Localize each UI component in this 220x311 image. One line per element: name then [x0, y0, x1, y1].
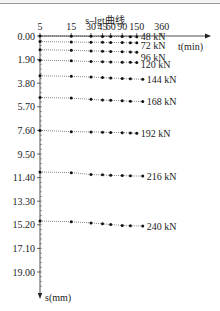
data-point [101, 131, 104, 134]
series-144-kn: 144 kN [39, 74, 177, 85]
data-point [70, 97, 73, 100]
data-point [39, 171, 42, 174]
x-tick-label: 30 [86, 21, 96, 32]
data-point [135, 41, 138, 44]
series-label: 240 kN [147, 221, 177, 232]
data-point [101, 98, 104, 101]
data-point [101, 41, 104, 44]
data-point [135, 35, 138, 38]
y-tick-label: 17.10 [13, 243, 36, 254]
data-point [141, 225, 144, 228]
data-point [129, 174, 132, 177]
data-point [129, 100, 132, 103]
y-axis-arrow-icon [38, 293, 42, 299]
series-216-kn: 216 kN [39, 171, 177, 182]
series-label: 144 kN [147, 74, 177, 85]
data-point [39, 74, 42, 77]
data-point [135, 132, 138, 135]
data-point [135, 51, 138, 54]
x-axis-arrow-icon [205, 34, 211, 39]
data-point [89, 75, 92, 78]
data-point [121, 61, 124, 64]
series-72-kn: 72 kN [39, 40, 166, 51]
y-tick-label: 13.30 [13, 196, 36, 207]
data-point [89, 60, 92, 63]
series-label: 168 kN [147, 96, 177, 107]
y-tick-label: 15.20 [13, 219, 36, 230]
y-tick-label: 11.40 [13, 172, 35, 183]
data-point [101, 222, 104, 225]
series-label: 216 kN [147, 171, 177, 182]
data-point [141, 175, 144, 178]
data-point [101, 76, 104, 79]
series-240-kn: 240 kN [39, 220, 177, 232]
data-point [121, 131, 124, 134]
data-point [101, 60, 104, 63]
data-point [121, 35, 124, 38]
x-tick-label: 90 [117, 21, 127, 32]
data-point [109, 99, 112, 102]
y-tick-label: 9.50 [18, 149, 36, 160]
data-point [101, 50, 104, 53]
x-tick-label: 15 [66, 21, 76, 32]
data-point [70, 75, 73, 78]
y-tick-label: 3.80 [18, 78, 36, 89]
data-point [39, 59, 42, 62]
data-point [121, 224, 124, 227]
x-tick-label: 5 [38, 21, 43, 32]
data-point [70, 171, 73, 174]
data-point [89, 130, 92, 133]
data-point [109, 131, 112, 134]
series-168-kn: 168 kN [39, 96, 177, 107]
data-point [39, 35, 42, 38]
series-group: 48 kN72 kN96 kN120 kN144 kN168 kN192 kN2… [39, 31, 177, 231]
y-tick-label: 1.90 [18, 54, 36, 65]
data-point [141, 100, 144, 103]
x-tick-label: 60 [106, 21, 116, 32]
data-point [109, 223, 112, 226]
data-point [129, 224, 132, 227]
series-120-kn: 120 kN [39, 59, 171, 70]
data-point [39, 129, 42, 132]
data-point [121, 77, 124, 80]
data-point [109, 50, 112, 53]
data-point [89, 221, 92, 224]
data-point [70, 35, 73, 38]
s-lgt-chart: s–lgt曲线 515304560901503600.001.903.805.7… [0, 0, 220, 311]
data-point [70, 130, 73, 133]
data-point [89, 98, 92, 101]
data-point [129, 41, 132, 44]
data-point [121, 99, 124, 102]
data-point [39, 48, 42, 51]
data-point [109, 35, 112, 38]
data-point [89, 41, 92, 44]
data-point [70, 59, 73, 62]
data-point [70, 49, 73, 52]
data-point [89, 49, 92, 52]
data-point [129, 50, 132, 53]
y-tick-label: 19.00 [13, 267, 36, 278]
data-point [129, 35, 132, 38]
data-point [129, 131, 132, 134]
data-point [101, 173, 104, 176]
data-point [129, 61, 132, 64]
data-point [121, 41, 124, 44]
data-point [109, 41, 112, 44]
series-192-kn: 192 kN [39, 128, 171, 139]
x-axis-label: t(min) [178, 41, 203, 53]
y-tick-label: 5.70 [18, 101, 36, 112]
data-point [129, 77, 132, 80]
y-axis-label: s(mm) [45, 292, 71, 304]
data-point [135, 61, 138, 64]
y-tick-label: 0.00 [18, 31, 36, 42]
data-point [39, 40, 42, 43]
data-point [109, 60, 112, 63]
y-tick-label: 7.60 [18, 125, 36, 136]
data-point [101, 35, 104, 38]
data-point [70, 40, 73, 43]
data-point [121, 174, 124, 177]
data-point [89, 35, 92, 38]
data-point [109, 76, 112, 79]
data-point [89, 173, 92, 176]
data-point [70, 220, 73, 223]
